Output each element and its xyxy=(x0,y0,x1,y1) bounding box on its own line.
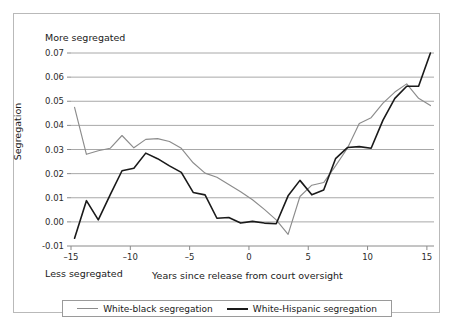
svg-text:0.05: 0.05 xyxy=(45,96,64,106)
legend-item-white-hispanic: White-Hispanic segregation xyxy=(227,304,377,314)
svg-text:0.06: 0.06 xyxy=(45,72,64,82)
series-line-white-hispanic xyxy=(75,53,431,238)
x-axis-tick-marks xyxy=(71,246,427,250)
series-line-white-black xyxy=(75,84,431,235)
svg-text:10: 10 xyxy=(362,252,373,262)
legend-item-white-black: White-black segregation xyxy=(77,304,213,314)
chart-legend: White-black segregation White-Hispanic s… xyxy=(62,300,392,317)
legend-swatch-white-black xyxy=(77,308,98,309)
svg-text:0.03: 0.03 xyxy=(45,145,64,155)
plot-area: -0.010.000.010.020.030.040.050.060.07 –1… xyxy=(14,14,441,314)
svg-text:5: 5 xyxy=(306,252,311,262)
svg-text:15: 15 xyxy=(421,252,432,262)
svg-text:0: 0 xyxy=(246,252,251,262)
y-axis-tick-labels: -0.010.000.010.020.030.040.050.060.07 xyxy=(42,48,64,251)
chart-figure: More segregated Less segregated Segregat… xyxy=(13,13,440,313)
svg-text:0.01: 0.01 xyxy=(45,193,64,203)
svg-text:0.02: 0.02 xyxy=(45,169,64,179)
legend-label-white-black: White-black segregation xyxy=(103,304,213,314)
legend-swatch-white-hispanic xyxy=(227,308,248,310)
svg-text:–15: –15 xyxy=(63,252,78,262)
svg-text:0.00: 0.00 xyxy=(45,217,64,227)
svg-text:0.04: 0.04 xyxy=(45,120,64,130)
legend-label-white-hispanic: White-Hispanic segregation xyxy=(253,304,377,314)
x-axis-tick-labels: –15–10–5051015 xyxy=(63,252,432,262)
svg-text:–10: –10 xyxy=(123,252,138,262)
svg-text:–5: –5 xyxy=(185,252,195,262)
gridlines xyxy=(67,53,434,246)
svg-text:-0.01: -0.01 xyxy=(42,241,64,251)
svg-text:0.07: 0.07 xyxy=(45,48,64,58)
